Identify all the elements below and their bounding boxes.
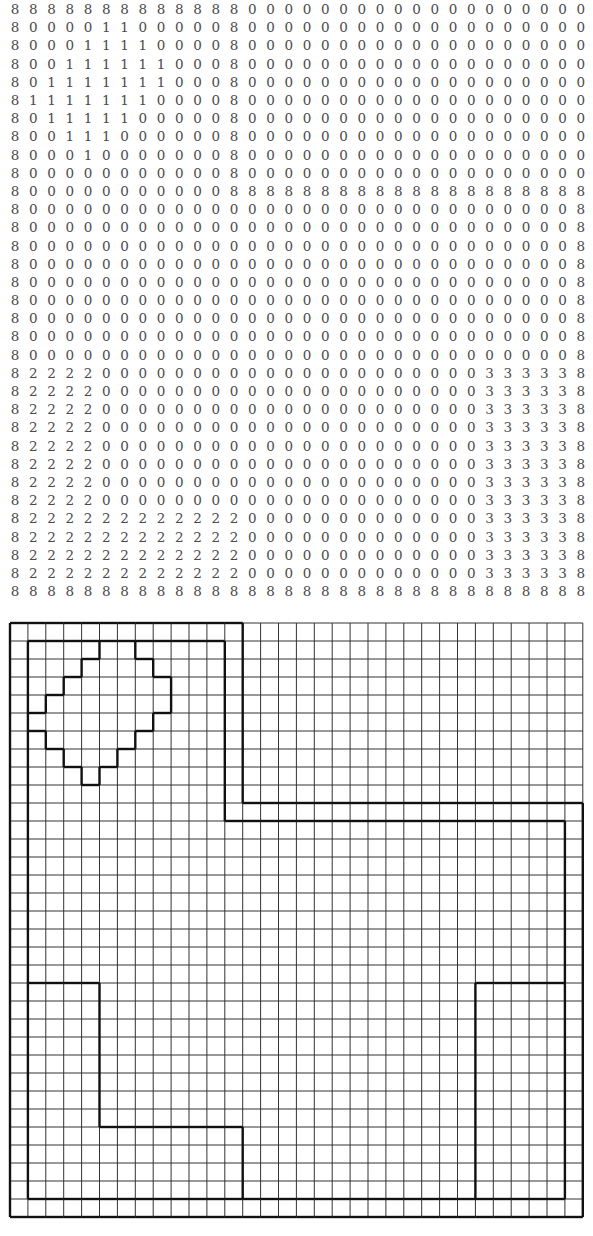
region-outline-grid (0, 0, 593, 1236)
